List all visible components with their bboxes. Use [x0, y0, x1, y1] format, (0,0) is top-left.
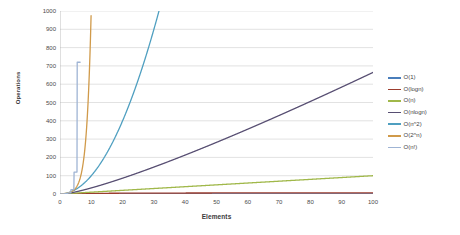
legend-color-swatch — [388, 135, 401, 137]
x-tick-label: 30 — [142, 199, 166, 205]
legend-color-swatch — [388, 77, 401, 79]
legend-label: O(2^n) — [404, 132, 422, 139]
series-line-on — [60, 176, 373, 194]
x-tick-label: 10 — [79, 199, 103, 205]
legend-label: O(1) — [404, 74, 416, 81]
x-tick-label: 100 — [361, 199, 385, 205]
x-tick-label: 70 — [267, 199, 291, 205]
legend-item[interactable]: O(n) — [388, 95, 460, 107]
legend-color-swatch — [388, 123, 401, 125]
y-tick-label: 600 — [18, 81, 56, 87]
x-tick-label: 0 — [48, 199, 72, 205]
legend-color-swatch — [388, 147, 401, 149]
legend-item[interactable]: O(2^n) — [388, 130, 460, 142]
y-tick-label: 900 — [18, 26, 56, 32]
legend-label: O(logn) — [404, 86, 424, 93]
legend-item[interactable]: O(logn) — [388, 84, 460, 96]
legend-label: O(n!) — [404, 144, 418, 151]
y-tick-label: 200 — [18, 154, 56, 160]
plot-svg — [60, 11, 373, 194]
legend-color-swatch — [388, 112, 401, 114]
x-tick-label: 40 — [173, 199, 197, 205]
series-line-on — [60, 62, 80, 194]
x-axis-title: Elements — [60, 213, 373, 220]
y-tick-label: 800 — [18, 45, 56, 51]
plot-area — [60, 11, 373, 194]
legend-item[interactable]: O(1) — [388, 72, 460, 84]
series-line-o2n — [60, 16, 91, 194]
x-tick-label: 20 — [111, 199, 135, 205]
y-tick-label: 100 — [18, 173, 56, 179]
y-tick-label: 500 — [18, 100, 56, 106]
x-tick-label: 80 — [298, 199, 322, 205]
legend-item[interactable]: O(n^2) — [388, 118, 460, 130]
legend-color-swatch — [388, 89, 401, 91]
y-tick-label: 0 — [18, 191, 56, 197]
y-tick-label: 700 — [18, 63, 56, 69]
legend-label: O(nlogn) — [404, 109, 427, 116]
legend-label: O(n) — [404, 97, 416, 104]
legend-label: O(n^2) — [404, 121, 422, 128]
legend-item[interactable]: O(nlogn) — [388, 107, 460, 119]
legend-color-swatch — [388, 100, 401, 102]
y-tick-label: 1000 — [18, 8, 56, 14]
y-tick-label: 400 — [18, 118, 56, 124]
legend-item[interactable]: O(n!) — [388, 142, 460, 154]
x-axis-tick-labels: 0102030405060708090100 — [0, 199, 460, 211]
x-tick-label: 60 — [236, 199, 260, 205]
grid-lines — [60, 11, 373, 194]
y-tick-label: 300 — [18, 136, 56, 142]
x-tick-label: 50 — [205, 199, 229, 205]
big-o-complexity-chart: Operations 10009008007006005004003002001… — [0, 0, 460, 235]
chart-legend: O(1)O(logn)O(n)O(nlogn)O(n^2)O(2^n)O(n!) — [388, 72, 460, 153]
x-tick-label: 90 — [330, 199, 354, 205]
